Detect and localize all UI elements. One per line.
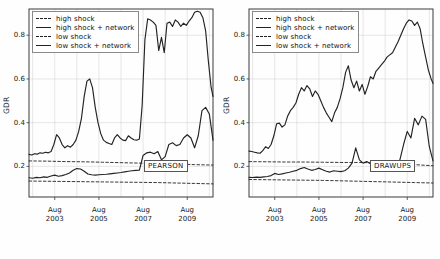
x-tick-month: Aug	[312, 206, 326, 214]
x-tick-year: 2009	[178, 215, 196, 223]
legend-item-high-shock[interactable]: high shock	[35, 14, 135, 23]
legend-label: high shock + network	[56, 24, 135, 32]
x-tick-year: 2005	[310, 215, 328, 223]
x-tick-label: Aug2003	[259, 206, 291, 223]
legend-item-low-shock-network[interactable]: low shock + network	[255, 41, 355, 50]
y-tick-label: 0.4	[3, 119, 25, 127]
x-tick-year: 2005	[90, 215, 108, 223]
x-tick-year: 2003	[266, 215, 284, 223]
legend-label: low shock + network	[276, 42, 351, 50]
legend-key-solid-icon	[35, 41, 52, 50]
legend-key-solid-icon	[35, 23, 52, 32]
x-tick-month: Aug	[268, 206, 282, 214]
x-tick-label: Aug2009	[391, 206, 423, 223]
x-tick-year: 2003	[46, 215, 64, 223]
x-tick-month: Aug	[400, 206, 414, 214]
x-tick-label: Aug2005	[83, 206, 115, 223]
x-tick-label: Aug2003	[39, 206, 71, 223]
y-tick-label: 0.8	[223, 31, 245, 39]
y-tick-label: 0.6	[3, 75, 25, 83]
legend-item-low-shock-network[interactable]: low shock + network	[35, 41, 135, 50]
legend-key-dashed-icon	[255, 14, 272, 23]
x-tick-month: Aug	[136, 206, 150, 214]
x-tick-month: Aug	[356, 206, 370, 214]
y-tick-label: 0.2	[223, 162, 245, 170]
x-tick-label: Aug2007	[347, 206, 379, 223]
legend-label: low shock	[276, 33, 311, 41]
x-tick-label: Aug2009	[171, 206, 203, 223]
annotation-drawups: DRAWUPS	[370, 160, 415, 172]
legend-right: high shock high shock + network low shoc…	[252, 11, 359, 53]
legend-left: high shock high shock + network low shoc…	[32, 11, 139, 53]
y-tick-label: 0.2	[3, 162, 25, 170]
x-tick-month: Aug	[92, 206, 106, 214]
legend-key-dashed-icon	[35, 32, 52, 41]
legend-label: low shock + network	[56, 42, 131, 50]
x-tick-year: 2009	[398, 215, 416, 223]
x-tick-month: Aug	[48, 206, 62, 214]
x-tick-year: 2007	[134, 215, 152, 223]
legend-item-high-shock[interactable]: high shock	[255, 14, 355, 23]
x-tick-label: Aug2005	[303, 206, 335, 223]
y-axis-label-right: GDR	[222, 97, 231, 114]
legend-label: high shock + network	[276, 24, 355, 32]
figure-root: GDR PEARSON high shock high shock + netw…	[0, 0, 440, 259]
legend-key-solid-icon	[255, 41, 272, 50]
annotation-pearson: PEARSON	[144, 160, 188, 172]
legend-label: low shock	[56, 33, 91, 41]
legend-label: high shock	[276, 15, 315, 23]
legend-key-dashed-icon	[255, 32, 272, 41]
legend-item-high-shock-network[interactable]: high shock + network	[255, 23, 355, 32]
y-tick-label: 0.4	[223, 119, 245, 127]
x-tick-year: 2007	[354, 215, 372, 223]
y-tick-label: 0.6	[223, 75, 245, 83]
x-tick-month: Aug	[180, 206, 194, 214]
chart-panel-left: GDR PEARSON high shock high shock + netw…	[0, 0, 220, 259]
legend-key-dashed-icon	[35, 14, 52, 23]
chart-panel-right: GDR DRAWUPS high shock high shock + netw…	[220, 0, 440, 259]
y-axis-label-left: GDR	[2, 97, 11, 114]
legend-key-solid-icon	[255, 23, 272, 32]
legend-item-low-shock[interactable]: low shock	[255, 32, 355, 41]
y-tick-label: 0.8	[3, 31, 25, 39]
x-tick-label: Aug2007	[127, 206, 159, 223]
legend-item-low-shock[interactable]: low shock	[35, 32, 135, 41]
legend-item-high-shock-network[interactable]: high shock + network	[35, 23, 135, 32]
legend-label: high shock	[56, 15, 95, 23]
